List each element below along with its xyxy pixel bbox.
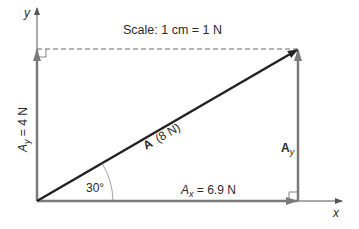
component-Ay-left-label: Ay = 4 N	[16, 107, 32, 153]
component-Ax-label: Ax = 6.9 N	[180, 183, 236, 199]
right-angle-marker-top	[37, 49, 46, 57]
scale-label: Scale: 1 cm = 1 N	[123, 23, 222, 37]
x-axis-label: x	[332, 206, 340, 220]
right-angle-marker-bottom	[289, 192, 298, 201]
vector-diagram: y x Scale: 1 cm = 1 N A (8 N) Ay = 4 N A…	[0, 0, 359, 229]
y-axis-label: y	[23, 6, 31, 20]
svg-text:Ay = 4 N: Ay = 4 N	[16, 107, 32, 153]
svg-text:A (8 N): A (8 N)	[141, 120, 183, 152]
component-Ay-right-label: Ay	[281, 141, 295, 157]
angle-label: 30°	[86, 181, 104, 195]
vector-A-label: A (8 N)	[141, 120, 183, 152]
